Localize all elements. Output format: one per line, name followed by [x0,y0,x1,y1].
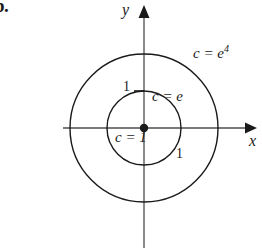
x-axis-label: x [249,133,256,149]
contour-label-outer-exponent: 4 [224,43,229,54]
contour-label-outer: c = e4 [193,46,229,61]
x-tick-label-one: 1 [176,147,183,161]
level-curves-figure: b. y x c = e4 c = e c = 1 1 1 [0,0,262,251]
contour-label-inner: c = 1 [115,130,147,145]
figure-canvas [0,0,262,251]
y-axis-arrowhead-icon [139,5,150,18]
contour-label-outer-base: c = e [193,45,224,61]
y-tick-label-one: 1 [123,80,130,94]
part-label: b. [0,0,8,15]
y-axis-label: y [122,2,129,18]
contour-label-middle: c = e [152,89,183,104]
